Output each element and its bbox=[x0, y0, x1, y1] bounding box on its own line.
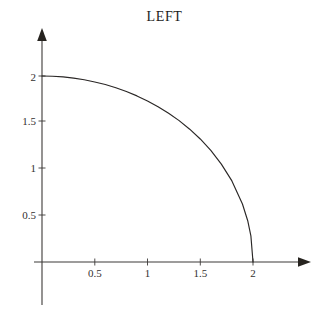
chart-figure: LEFT 0.5 1 1.5 2 0.5 1 1.5 2 bbox=[0, 0, 321, 321]
data-curve-quarter-circle bbox=[42, 76, 253, 262]
y-tick-label-2: 1.5 bbox=[22, 116, 36, 127]
y-axis-arrow-icon bbox=[37, 28, 47, 41]
plot-area bbox=[0, 0, 321, 321]
y-tick-label-3: 2 bbox=[31, 72, 37, 83]
y-tick-label-1: 1 bbox=[31, 163, 37, 174]
x-tick-label-2: 1.5 bbox=[193, 268, 207, 279]
x-tick-label-3: 2 bbox=[250, 268, 256, 279]
y-tick-label-0: 0.5 bbox=[22, 210, 36, 221]
x-axis-arrow-icon bbox=[298, 257, 311, 267]
x-tick-label-0: 0.5 bbox=[88, 268, 102, 279]
x-tick-label-1: 1 bbox=[145, 268, 151, 279]
